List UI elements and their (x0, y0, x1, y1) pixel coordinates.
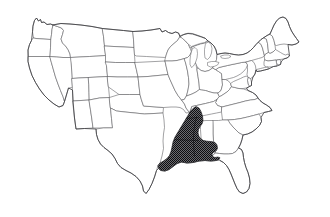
state-maine (270, 17, 299, 46)
state-kansas (108, 77, 141, 95)
state-wyoming (71, 56, 108, 79)
us-map-figure (0, 0, 330, 217)
state-new-jersey (246, 61, 256, 79)
state-iowa (135, 61, 168, 77)
state-utah (72, 78, 89, 102)
state-south-dakota (105, 46, 136, 63)
us-map-svg (0, 0, 330, 217)
state-new-mexico (89, 98, 112, 129)
state-washington (33, 18, 54, 40)
state-colorado (89, 77, 110, 101)
state-nebraska (106, 62, 139, 77)
state-outlines-layer (28, 17, 299, 194)
state-maryland (231, 76, 250, 89)
